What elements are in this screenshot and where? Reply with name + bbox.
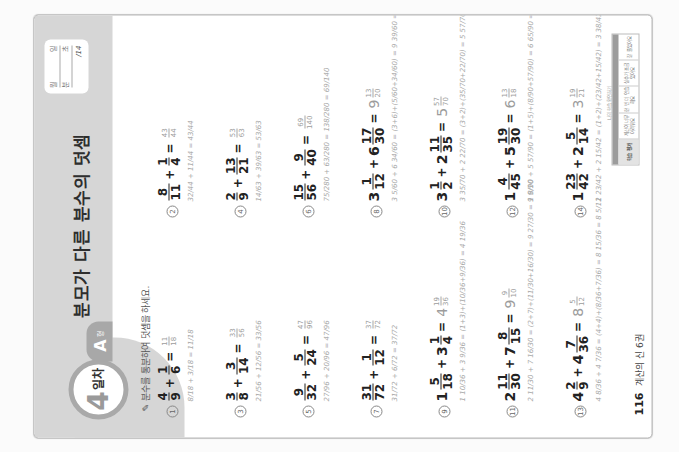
- fraction: 3356: [229, 327, 246, 338]
- fraction: 16: [157, 365, 182, 375]
- problem-expression: 1556+940=69140: [293, 115, 318, 202]
- denominator: 36: [441, 297, 449, 306]
- fraction: 41936: [433, 296, 450, 317]
- fraction: 38: [225, 391, 250, 401]
- numerator: 11: [497, 373, 509, 390]
- handwritten-answer: 4796: [297, 319, 314, 330]
- plus-operator: +: [298, 170, 312, 180]
- handwritten-work: 1 23/42 + 2 15/42 = (1+2)+(23/42+15/42) …: [595, 15, 603, 202]
- numerator: 1: [429, 336, 441, 344]
- numerator: 8: [157, 188, 169, 196]
- plus-operator: +: [434, 167, 448, 177]
- equals-sign: =: [298, 135, 312, 145]
- denominator: 6: [170, 366, 182, 374]
- equals-sign: =: [434, 322, 448, 332]
- whole-number: 1: [501, 192, 517, 202]
- problem-expression: 811+14=4344: [157, 127, 182, 201]
- handwritten-answer: 8512: [569, 296, 586, 317]
- fraction: 1445: [497, 172, 522, 201]
- fraction: 21130: [497, 372, 522, 401]
- whole-number: 3: [433, 346, 449, 356]
- study-strip-cell: 한 번 더 연습해요: [619, 87, 639, 113]
- problem-expression: 21130+7815=9910: [497, 288, 522, 402]
- fraction: 49: [157, 391, 182, 401]
- problem-item: 429+1321=536314/63 + 39/63 = 53/63: [225, 38, 287, 218]
- equals-sign: =: [230, 143, 244, 153]
- equals-sign: =: [230, 343, 244, 353]
- numerator: 69: [297, 118, 305, 127]
- numerator: 5: [569, 299, 577, 303]
- denominator: 12: [374, 349, 386, 366]
- handwritten-answer: 3772: [365, 319, 382, 330]
- numerator: 17: [361, 128, 373, 145]
- page-title: 분모가 다른 분수의 덧셈: [68, 133, 93, 317]
- denominator: 4: [442, 336, 454, 344]
- problem-number: 7: [371, 406, 383, 418]
- book-label: 계산의 신 6권: [635, 334, 645, 385]
- problem-item: 121445+51930=613181 8/90 + 5 57/90 = (1+…: [497, 38, 559, 218]
- denominator: 12: [374, 173, 386, 190]
- handwritten-work: 1 10/36 + 3 9/36 = (1+3)+(10/36+9/36) = …: [459, 221, 467, 401]
- fraction: 5363: [229, 127, 246, 138]
- fraction: 91320: [365, 88, 382, 109]
- numerator: 19: [497, 128, 509, 145]
- handwritten-answer: 31921: [569, 88, 586, 109]
- study-check-strip: 학습 평가계산이 너무 어려워요한 번 더 연습해요실수가 조금 있어요잘 풀었…: [612, 34, 640, 166]
- denominator: 9: [170, 392, 182, 400]
- whole-number: 9: [501, 300, 517, 309]
- problem-number: 5: [303, 406, 315, 418]
- handwritten-answer: 1118: [161, 336, 178, 347]
- problem-item: 149+16=11188/18 + 3/18 = 11/18: [157, 238, 219, 418]
- fraction: 3772: [365, 319, 382, 330]
- denominator: 36: [578, 336, 590, 353]
- pencil-icon: ✎: [141, 401, 151, 411]
- whole-number: 1: [569, 192, 585, 202]
- numerator: 13: [501, 89, 509, 98]
- problem-expression: 3172+112=3772: [361, 319, 386, 401]
- fraction: 940: [293, 148, 318, 167]
- problem-expression: 1518+314=41936: [429, 296, 454, 402]
- level-suffix: 형: [95, 331, 105, 337]
- level-letter: A: [90, 339, 109, 351]
- plus-operator: +: [366, 370, 380, 380]
- problem-number: 4: [235, 206, 247, 218]
- denominator: 40: [306, 149, 318, 166]
- fraction: 2514: [565, 127, 590, 156]
- problem-expression: 429+4736=8512: [565, 296, 590, 402]
- fraction: 312: [429, 180, 454, 201]
- denominator: 140: [305, 116, 313, 129]
- handwritten-work: 8/18 + 3/18 = 11/18: [187, 329, 195, 401]
- handwritten-answer: 91320: [365, 88, 382, 109]
- plus-operator: +: [298, 370, 312, 380]
- numerator: 1: [361, 177, 373, 185]
- numerator: 1: [157, 366, 169, 374]
- handwritten-answer: 41936: [433, 296, 450, 317]
- denominator: 70: [441, 97, 449, 106]
- problem-item: 83112+61730=913203 5/60 + 6 34/60 = (3+6…: [361, 38, 423, 218]
- fraction: 8512: [569, 296, 586, 317]
- page-number: 116: [633, 393, 646, 416]
- handwritten-answer: 5363: [229, 127, 246, 138]
- denominator: 30: [510, 128, 522, 145]
- fraction: 14: [157, 156, 182, 166]
- problem-number: 2: [167, 206, 179, 218]
- handwritten-work: 1 8/90 + 5 57/90 = (1+5)+(8/90+57/90) = …: [527, 15, 535, 202]
- denominator: 20: [373, 89, 381, 98]
- problem-expression: 3112+61730=91320: [361, 88, 386, 202]
- fraction: 55770: [433, 96, 450, 117]
- day-number: 4: [85, 391, 113, 410]
- denominator: 2: [442, 181, 454, 189]
- denominator: 24: [306, 349, 318, 366]
- fraction: 4736: [565, 335, 590, 364]
- study-strip-cells: 학습 평가계산이 너무 어려워요한 번 더 연습해요실수가 조금 있어요잘 풀었…: [619, 35, 639, 165]
- whole-number: 8: [569, 308, 585, 317]
- numerator: 3: [225, 392, 237, 400]
- equals-sign: =: [570, 113, 584, 123]
- numerator: 11: [161, 337, 169, 346]
- problem-number: 10: [439, 206, 451, 218]
- problem-expression: 38+314=3356: [225, 327, 250, 401]
- whole-number: 4: [433, 308, 449, 317]
- fraction: 429: [565, 380, 590, 401]
- denominator: 14: [238, 357, 250, 374]
- plus-operator: +: [230, 378, 244, 388]
